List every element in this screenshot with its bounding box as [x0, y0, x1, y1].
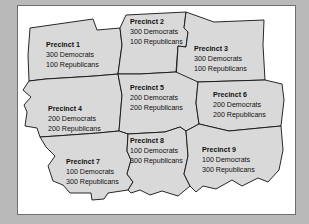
precinct-5-title: Precinct 5 — [130, 84, 164, 92]
precinct-6-title: Precinct 6 — [213, 91, 247, 99]
precinct-7-title: Precinct 7 — [66, 158, 100, 166]
precinct-3-republicans: 100 Republicans — [194, 65, 247, 73]
precinct-8-republicans: 300 Republicans — [130, 157, 183, 165]
precinct-5-republicans: 200 Republicans — [130, 104, 183, 112]
precinct-2-title: Precinct 2 — [130, 18, 164, 26]
precinct-4-republicans: 200 Republicans — [48, 125, 101, 133]
precinct-5-democrats: 200 Democrats — [130, 94, 179, 102]
precinct-9-title: Precinct 9 — [202, 146, 236, 154]
precinct-7-republicans: 300 Republicans — [66, 178, 119, 186]
precinct-3-title: Precinct 3 — [194, 45, 228, 53]
precinct-1-republicans: 100 Republicans — [46, 61, 99, 69]
precinct-1-democrats: 300 Democrats — [46, 51, 95, 59]
precinct-2-democrats: 300 Democrats — [130, 28, 179, 36]
precinct-8-title: Precinct 8 — [130, 137, 164, 145]
screenshot-root: Precinct 1300 Democrats100 RepublicansPr… — [0, 0, 309, 224]
precinct-4-democrats: 200 Democrats — [48, 115, 97, 123]
precinct-5-shape[interactable] — [118, 72, 199, 134]
precinct-1-title: Precinct 1 — [46, 41, 80, 49]
precinct-9-democrats: 100 Democrats — [202, 156, 251, 164]
precinct-6-republicans: 200 Republicans — [213, 111, 266, 119]
precinct-6-democrats: 200 Democrats — [213, 101, 262, 109]
precinct-2-republicans: 100 Republicans — [130, 38, 183, 46]
precinct-7-democrats: 100 Democrats — [66, 168, 115, 176]
precinct-map: Precinct 1300 Democrats100 RepublicansPr… — [0, 0, 309, 224]
precinct-8-democrats: 100 Democrats — [130, 147, 179, 155]
precinct-9-republicans: 300 Republicans — [202, 166, 255, 174]
precinct-4-title: Precinct 4 — [48, 105, 82, 113]
precinct-3-democrats: 300 Democrats — [194, 55, 243, 63]
precinct-1-shape[interactable] — [28, 19, 122, 81]
